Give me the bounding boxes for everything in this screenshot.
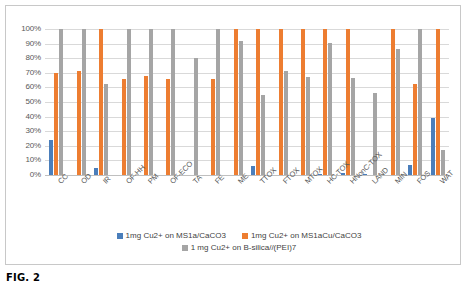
bar — [396, 49, 400, 175]
bar-group — [292, 29, 314, 175]
chart-legend: 1mg Cu2+ on MS1a/CaCO3 1mg Cu2+ on MS1aC… — [11, 231, 467, 255]
bar — [346, 29, 350, 175]
bar — [261, 95, 265, 175]
bar — [413, 84, 417, 175]
x-axis-tick: IR — [90, 176, 112, 228]
bar — [166, 79, 170, 175]
x-axis-tick-label: IR — [102, 175, 113, 186]
bar — [94, 168, 98, 175]
y-axis-tick-label: 30% — [26, 127, 41, 135]
legend-row-1: 1mg Cu2+ on MS1a/CaCO3 1mg Cu2+ on MS1aC… — [11, 231, 467, 240]
bar — [149, 29, 153, 175]
bar — [256, 29, 260, 175]
legend-label: 1mg Cu2+ on MS1aCu/CaCO3 — [251, 231, 362, 240]
bar — [351, 78, 355, 175]
bar-groups — [45, 29, 449, 175]
bar — [323, 29, 327, 175]
bar-group — [90, 29, 112, 175]
bar-group — [45, 29, 67, 175]
bar — [234, 29, 238, 175]
x-axis-tick: TA — [180, 176, 202, 228]
x-axis-tick: WAT — [426, 176, 448, 228]
bar — [239, 41, 243, 175]
x-axis-tick: FTOX — [269, 176, 291, 228]
y-axis-tick-label: 50% — [26, 98, 41, 106]
bar-group — [180, 29, 202, 175]
x-axis-tick: LAND — [359, 176, 381, 228]
legend-swatch-icon — [242, 233, 248, 239]
bar — [171, 29, 175, 175]
bar-group — [157, 29, 179, 175]
bar — [127, 29, 131, 175]
x-axis-tick: FOS — [404, 176, 426, 228]
bar — [216, 29, 220, 175]
y-axis-tick-label: 0% — [30, 171, 41, 179]
x-axis-tick: MIN — [382, 176, 404, 228]
y-axis-tick-label: 20% — [26, 142, 41, 150]
bar — [99, 29, 103, 175]
y-axis-tick-label: 100% — [21, 25, 41, 33]
bar — [284, 71, 288, 175]
x-axis-tick: HNonC-TOX — [337, 176, 359, 228]
bar-group — [426, 29, 448, 175]
legend-label: 1 mg Cu2+ on B-silica//(PEI)7 — [191, 243, 297, 252]
legend-item-series-2[interactable]: 1 mg Cu2+ on B-silica//(PEI)7 — [182, 243, 297, 252]
bar — [418, 29, 422, 175]
y-axis-tick-label: 40% — [26, 113, 41, 121]
bar — [431, 118, 435, 175]
figure-page: 0%10%20%30%40%50%60%70%80%90%100% CCODIR… — [0, 0, 468, 293]
x-axis-tick: FE — [202, 176, 224, 228]
x-axis-tick: CC — [45, 176, 67, 228]
y-axis-tick-label: 60% — [26, 83, 41, 91]
y-axis: 0%10%20%30%40%50%60%70%80%90%100% — [7, 29, 41, 175]
x-axis-tick: MTOX — [292, 176, 314, 228]
bar — [441, 150, 445, 175]
legend-item-series-1[interactable]: 1mg Cu2+ on MS1aCu/CaCO3 — [242, 231, 362, 240]
x-axis-tick: HC-TOX — [314, 176, 336, 228]
x-axis-tick: OD — [67, 176, 89, 228]
bar-group — [135, 29, 157, 175]
x-axis-tick: TTOX — [247, 176, 269, 228]
x-axis-tick: OF-HH — [112, 176, 134, 228]
bar-group — [404, 29, 426, 175]
bar — [59, 29, 63, 175]
legend-swatch-icon — [117, 233, 123, 239]
y-axis-tick-label: 70% — [26, 69, 41, 77]
bar — [122, 79, 126, 175]
bar — [306, 77, 310, 175]
bar — [54, 73, 58, 175]
x-axis-tick: PM — [135, 176, 157, 228]
x-axis-tick: ME — [225, 176, 247, 228]
bar-group — [247, 29, 269, 175]
bar — [301, 29, 305, 175]
bar — [328, 43, 332, 175]
bar — [144, 76, 148, 175]
bar — [211, 79, 215, 175]
bar-group — [112, 29, 134, 175]
plot-area: 0%10%20%30%40%50%60%70%80%90%100% — [45, 29, 449, 175]
bar — [436, 29, 440, 175]
bar — [49, 140, 53, 175]
bar-group — [269, 29, 291, 175]
bar — [77, 71, 81, 175]
bar-group — [67, 29, 89, 175]
legend-item-series-0[interactable]: 1mg Cu2+ on MS1a/CaCO3 — [117, 231, 226, 240]
x-axis-tick: OF-ECO — [157, 176, 179, 228]
bar — [279, 29, 283, 175]
y-axis-tick-label: 10% — [26, 156, 41, 164]
y-axis-tick-label: 90% — [26, 40, 41, 48]
bar — [104, 84, 108, 175]
bar-group — [202, 29, 224, 175]
x-axis: CCODIROF-HHPMOF-ECOTAFEMETTOXFTOXMTOXHC-… — [45, 176, 449, 228]
legend-swatch-icon — [182, 245, 188, 251]
chart-frame: 0%10%20%30%40%50%60%70%80%90%100% CCODIR… — [5, 5, 461, 265]
bar-group — [225, 29, 247, 175]
bar — [251, 166, 255, 175]
bar-group — [337, 29, 359, 175]
legend-label: 1mg Cu2+ on MS1a/CaCO3 — [126, 231, 226, 240]
bar-group — [382, 29, 404, 175]
bar — [194, 58, 198, 175]
y-axis-tick-label: 80% — [26, 54, 41, 62]
bar — [408, 165, 412, 175]
bar — [82, 29, 86, 175]
